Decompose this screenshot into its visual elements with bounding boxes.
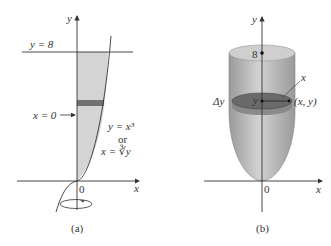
x-axis-label: x: [133, 182, 139, 194]
curve-label-1: y = x³: [107, 120, 135, 132]
y-axis-label: y: [66, 12, 72, 24]
top-point: [260, 51, 264, 55]
rotation-arrow-icon: [60, 200, 92, 209]
center-y-label: y: [252, 94, 258, 106]
panel-a: y x 0 y = 8 x = 0 y = x³ or x = ∛y (a): [17, 12, 139, 235]
point-label: (x, y): [294, 95, 317, 108]
shaded-region: [77, 52, 108, 181]
panel-b: y x 0 8 x y (x, y) Δy (b): [204, 13, 322, 235]
origin-label: 0: [79, 183, 85, 195]
curve-label-2: x = ∛y: [100, 144, 131, 157]
y-axis-label: y: [251, 13, 257, 25]
radius-label: x: [300, 71, 306, 83]
x0-label: x = 0: [32, 109, 57, 121]
horizontal-strip: [77, 100, 104, 106]
curve-label-or: or: [118, 133, 128, 145]
top-value-label: 8: [252, 48, 258, 60]
line-y8-label: y = 8: [29, 38, 54, 50]
volume-diagram: y x 0 y = 8 x = 0 y = x³ or x = ∛y (a) y…: [0, 0, 331, 246]
x-axis-label: x: [315, 183, 321, 195]
origin-label: 0: [264, 183, 270, 195]
caption-b: (b): [256, 222, 269, 235]
caption-a: (a): [71, 222, 84, 235]
delta-y-label: Δy: [212, 95, 224, 107]
rim-point: [288, 100, 291, 103]
